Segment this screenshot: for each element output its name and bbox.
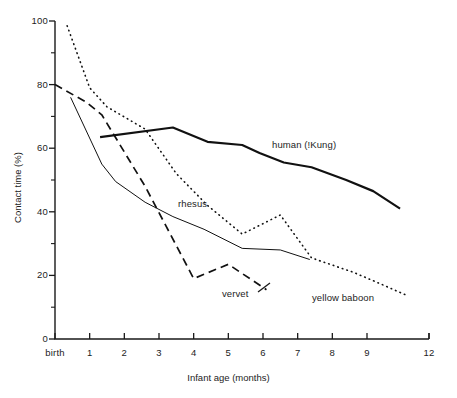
series-line-rhesus (71, 97, 310, 259)
series-label-vervet: vervet (222, 288, 248, 299)
series-line-yellow-baboon (67, 26, 408, 296)
y-tick-label: 80 (18, 79, 48, 90)
x-tick-label: 9 (347, 347, 387, 358)
x-axis-title: Infant age (months) (0, 372, 457, 383)
series-line-vervet (55, 85, 266, 290)
chart-plot-area (0, 0, 457, 398)
series-label-human: human (!Kung) (272, 139, 336, 150)
y-tick-label: 100 (18, 15, 48, 26)
series-label-rhesus: rhesus (178, 198, 207, 209)
y-axis-title-wrap: Contact time (%) (4, 120, 26, 260)
chart-series (55, 26, 408, 296)
y-tick-label: 20 (18, 269, 48, 280)
series-label-yellow-baboon: yellow baboon (312, 292, 374, 303)
series-line-human-kung- (100, 128, 400, 209)
y-tick-label: 40 (18, 206, 48, 217)
chart-figure: Contact time (%) Infant age (months) 020… (0, 0, 457, 398)
y-tick-label: 60 (18, 142, 48, 153)
y-tick-label: 0 (18, 333, 48, 344)
x-tick-label: 12 (409, 347, 449, 358)
